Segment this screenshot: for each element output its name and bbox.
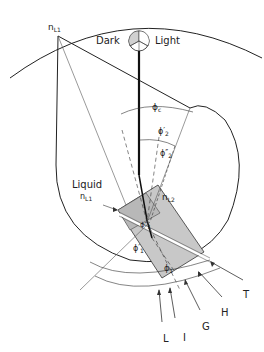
n-l1-top-label: nL1 (48, 23, 61, 33)
prism (118, 185, 204, 278)
refractometer-diagram (0, 0, 264, 352)
ray-label-h: H (221, 308, 229, 318)
phi2-prime-label: ϕ′2 (158, 128, 169, 137)
phi1-label: ϕ1 (164, 265, 173, 274)
dark-label: Dark (96, 36, 120, 46)
light-label: Light (155, 36, 180, 46)
ray-label-i: I (183, 333, 186, 343)
ray-label-l: L (163, 334, 169, 344)
ray-label-t: T (243, 290, 249, 300)
phi1-dprime-label: ϕ″1 (140, 222, 151, 230)
n-l2-label: nL2 (162, 193, 175, 203)
phi-c-label: ϕc (152, 103, 161, 113)
ray-label-g: G (202, 322, 210, 332)
n-l1-liquid-label: nL1 (80, 193, 92, 202)
phi2-dprime-label: ϕ″2 (160, 150, 172, 159)
phi1-prime-label: ϕ′1 (133, 245, 144, 254)
liquid-label: Liquid (72, 180, 102, 190)
